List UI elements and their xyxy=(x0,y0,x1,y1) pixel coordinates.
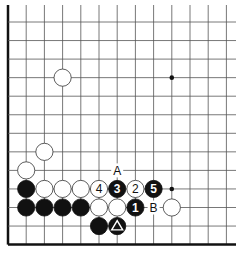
star-point-icon xyxy=(170,75,175,80)
black-stone xyxy=(90,217,107,234)
stone-icon xyxy=(90,217,107,234)
black-stone-move-3: 3 xyxy=(109,180,126,197)
black-stone xyxy=(72,199,89,216)
move-number: 1 xyxy=(132,201,139,215)
white-stone xyxy=(90,199,107,216)
stone-icon xyxy=(18,162,35,179)
stone-icon xyxy=(54,199,71,216)
black-stone xyxy=(18,199,35,216)
stone-icon xyxy=(36,180,53,197)
black-stone xyxy=(109,217,126,234)
black-stone xyxy=(18,180,35,197)
black-stone-move-5: 5 xyxy=(145,180,162,197)
move-number: 3 xyxy=(114,182,121,196)
white-stone xyxy=(18,162,35,179)
black-stone xyxy=(36,199,53,216)
move-number: 5 xyxy=(150,182,157,196)
stone-icon xyxy=(72,180,89,197)
stone-icon xyxy=(18,199,35,216)
move-number: 4 xyxy=(96,182,103,196)
white-stone xyxy=(163,199,180,216)
white-stone xyxy=(54,69,71,86)
stone-icon xyxy=(18,180,35,197)
stone-icon xyxy=(36,199,53,216)
white-stone-move-2: 2 xyxy=(127,180,144,197)
stone-icon xyxy=(90,199,107,216)
stone-icon xyxy=(36,143,53,160)
point-label-a: A xyxy=(113,164,121,178)
stone-icon xyxy=(72,199,89,216)
star-point-icon xyxy=(170,187,175,192)
white-stone xyxy=(72,180,89,197)
white-stone xyxy=(54,180,71,197)
move-number: 2 xyxy=(132,182,139,196)
stone-icon xyxy=(54,180,71,197)
white-stone xyxy=(36,180,53,197)
black-stone-move-1: 1 xyxy=(127,199,144,216)
stone-icon xyxy=(54,69,71,86)
go-board: AB 43251 xyxy=(0,0,243,255)
point-label-b: B xyxy=(150,201,158,215)
white-stone xyxy=(109,199,126,216)
white-stone xyxy=(36,143,53,160)
stone-icon xyxy=(163,199,180,216)
black-stone xyxy=(54,199,71,216)
white-stone-move-4: 4 xyxy=(90,180,107,197)
stone-icon xyxy=(109,199,126,216)
